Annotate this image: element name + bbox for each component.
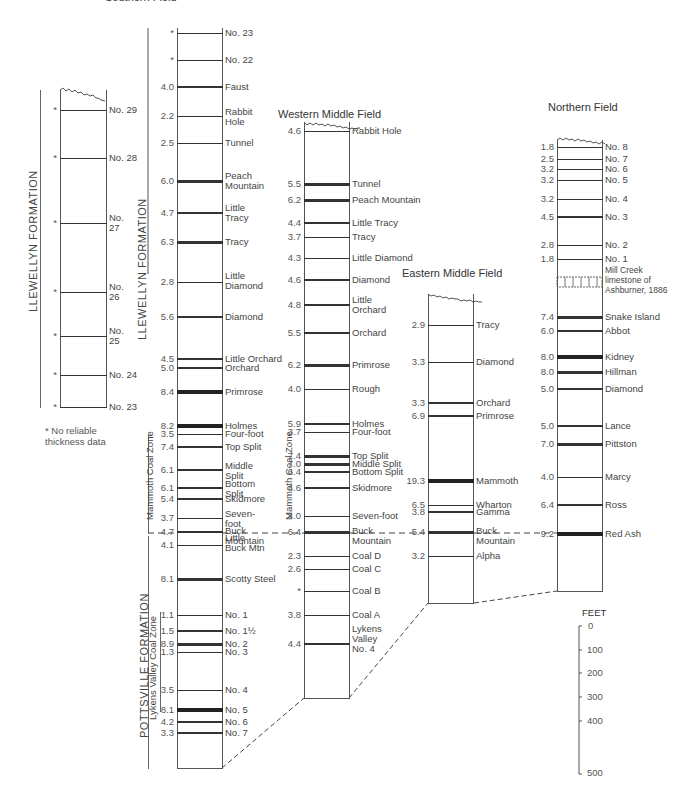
- seam-line: [177, 358, 223, 360]
- seam-line: [177, 721, 223, 723]
- seam-thickness: 5.5: [273, 328, 301, 338]
- seam-thickness: 3.3: [146, 728, 174, 738]
- seam-name: Red Ash: [605, 529, 641, 539]
- seam-line: [428, 402, 474, 404]
- seam-line: [177, 545, 223, 546]
- seam-line: [304, 131, 350, 132]
- seam-thickness: 3.3: [397, 357, 425, 367]
- seam-line: [177, 116, 223, 117]
- seam-line: [177, 708, 223, 712]
- seam-name: Little Tracy: [352, 218, 398, 228]
- seam-thickness: 8.1: [146, 574, 174, 584]
- seam-name: No. 4: [225, 685, 248, 695]
- seam-name: Seven-foot: [352, 511, 398, 521]
- seam-thickness: 4.4: [273, 218, 301, 228]
- seam-name: No. 3: [605, 212, 628, 222]
- seam-line: [304, 455, 350, 458]
- scale-tick-400: 400: [587, 715, 603, 726]
- seam-thickness: 6.4: [273, 527, 301, 537]
- seam-thickness: *: [29, 287, 57, 297]
- seam-line: [428, 511, 474, 513]
- seam-name: Rabbit Hole: [225, 107, 252, 127]
- seam-line: [304, 237, 350, 238]
- seam-name: Peach Mountain: [225, 171, 264, 191]
- seam-name: Tunnel: [352, 179, 381, 189]
- seam-thickness: 1.3: [146, 647, 174, 657]
- seam-name: No. 8: [605, 142, 628, 152]
- seam-thickness: 4.6: [273, 483, 301, 493]
- seam-name: Diamond: [225, 312, 263, 322]
- seam-name: Tracy: [476, 320, 499, 330]
- seam-line: [304, 199, 350, 202]
- seam-name: No. 6: [225, 717, 248, 727]
- seam-thickness: 2.9: [397, 320, 425, 330]
- seam-thickness: 5.4: [397, 527, 425, 537]
- seam-line: [177, 531, 223, 533]
- seam-line: [304, 531, 350, 534]
- seam-line: [177, 615, 223, 616]
- seam-thickness: 5.4: [146, 494, 174, 504]
- seam-line: [428, 531, 474, 534]
- seam-thickness: 3.2: [397, 551, 425, 561]
- seam-line: [557, 147, 603, 148]
- seam-name: No. 22: [225, 55, 253, 65]
- seam-thickness: 4.7: [146, 208, 174, 218]
- seam-thickness: 8.1: [146, 705, 174, 715]
- seam-line: [177, 732, 223, 734]
- seam-name: Orchard: [225, 363, 259, 373]
- seam-line: [304, 364, 350, 367]
- seam-name: Hillman: [605, 367, 637, 377]
- seam-thickness: *: [146, 28, 174, 38]
- seam-thickness: 4.6: [273, 126, 301, 136]
- scale-tick-200: 200: [587, 667, 603, 678]
- seam-name: Rough: [352, 384, 380, 394]
- seam-name: Tracy: [225, 237, 248, 247]
- seam-name: Diamond: [476, 357, 514, 367]
- seam-line: [557, 159, 603, 160]
- seam-thickness: 5.0: [526, 421, 554, 431]
- seam-line: [177, 60, 223, 61]
- seam-line: [60, 292, 107, 293]
- seam-line: [177, 578, 223, 581]
- seam-name: Coal D: [352, 551, 381, 561]
- seam-thickness: 3.8: [397, 507, 425, 517]
- seam-name: Skidmore: [352, 483, 392, 493]
- seam-name: Diamond: [352, 275, 390, 285]
- seam-thickness: 3.7: [273, 427, 301, 437]
- seam-name: No. 3: [225, 647, 248, 657]
- seam-name: Primrose: [476, 411, 514, 421]
- seam-name: No. 1: [225, 610, 248, 620]
- seam-name: Faust: [225, 82, 249, 92]
- seam-line: [304, 332, 350, 334]
- seam-thickness: 2.8: [526, 240, 554, 250]
- seam-line: [304, 516, 350, 517]
- seam-thickness: 6.4: [526, 500, 554, 510]
- seam-name: Coal C: [352, 564, 381, 574]
- seam-thickness: 2.2: [146, 111, 174, 121]
- seam-name: Coal B: [352, 586, 381, 596]
- seam-thickness: 3.3: [397, 398, 425, 408]
- seam-line: [177, 212, 223, 214]
- seam-name: No. 7: [225, 728, 248, 738]
- seam-name: Little Tracy: [225, 203, 248, 223]
- seam-thickness: 8.0: [526, 352, 554, 362]
- seam-name: Little Diamond: [225, 271, 263, 291]
- seam-name: Little Orchard: [352, 295, 386, 315]
- seam-line: [304, 258, 350, 259]
- seam-line: [177, 690, 223, 691]
- seam-name: No. 23: [109, 402, 137, 412]
- seam-thickness: 6.0: [526, 326, 554, 336]
- seam-line: [177, 241, 223, 244]
- seam-thickness: 4.4: [273, 639, 301, 649]
- seam-line: [557, 199, 603, 200]
- seam-line: [304, 643, 350, 645]
- seam-name: Primrose: [352, 360, 390, 370]
- seam-line: [304, 423, 350, 425]
- seam-thickness: 6.1: [146, 465, 174, 475]
- llewellyn-left-bracket: [40, 90, 41, 408]
- seam-thickness: 4.3: [273, 253, 301, 263]
- seam-name: No. 28: [109, 153, 137, 163]
- seam-name: Snake Island: [605, 312, 660, 322]
- column-southern: [177, 28, 223, 769]
- seam-line: [304, 304, 350, 306]
